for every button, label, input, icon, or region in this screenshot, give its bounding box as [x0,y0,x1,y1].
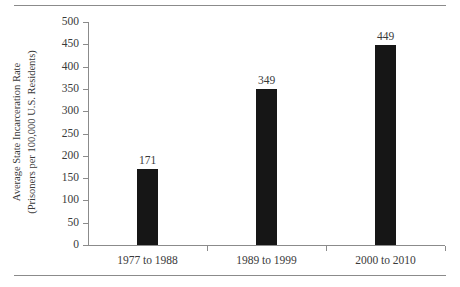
y-tick-label: 500 [62,16,79,28]
x-separator-tick [207,246,208,251]
y-tick-label: 350 [62,83,79,95]
top-horizontal-rule [14,5,446,6]
y-axis-title-line-1: Average State Incarceration Rate [9,50,24,214]
bar: 349 [256,89,277,245]
bottom-horizontal-rule [14,275,446,276]
y-tick-mark [83,156,88,157]
y-axis-line [88,22,89,246]
y-tick-label: 450 [62,39,79,51]
y-tick-mark [83,22,88,23]
bar-value-label: 449 [377,30,394,42]
y-tick-mark [83,111,88,112]
y-tick-mark [83,178,88,179]
y-tick-mark [83,89,88,90]
x-axis-category-label: 2000 to 2010 [355,254,416,267]
x-axis-category-label: 1977 to 1988 [117,254,178,267]
y-tick-mark [83,223,88,224]
y-tick-mark [83,67,88,68]
bar: 449 [375,45,396,245]
x-separator-tick [326,246,327,251]
y-tick-label: 150 [62,172,79,184]
x-axis-line [88,245,445,246]
y-tick-label: 50 [68,217,80,229]
bar-chart-figure: Average State Incarceration Rate (Prison… [0,0,460,287]
bar: 171 [137,169,158,245]
y-tick-mark [83,245,88,246]
y-tick-mark [83,134,88,135]
y-tick-label: 100 [62,195,79,207]
y-tick-label: 0 [73,239,79,251]
y-tick-label: 400 [62,61,79,73]
bar-value-label: 171 [139,154,156,166]
plot-area: 050100150200250300350400450500 171349449… [88,22,445,245]
bar-value-label: 349 [258,74,275,86]
y-axis-title: Average State Incarceration Rate (Prison… [4,18,44,246]
y-axis-title-line-2: (Prisoners per 100,000 U.S. Residents) [24,50,39,214]
x-separator-tick [445,246,446,251]
x-axis-category-label: 1989 to 1999 [236,254,297,267]
y-tick-label: 300 [62,105,79,117]
y-tick-label: 200 [62,150,79,162]
y-tick-mark [83,200,88,201]
y-tick-mark [83,44,88,45]
y-tick-label: 250 [62,128,79,140]
